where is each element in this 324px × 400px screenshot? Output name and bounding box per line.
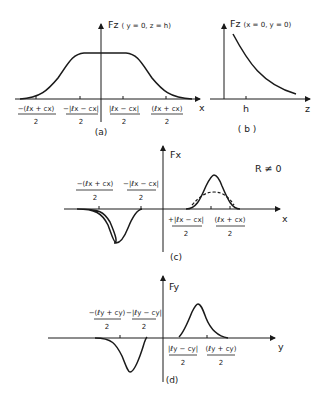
fz-decay-curve: [233, 34, 296, 94]
panel-d: Fy y −(ℓy + cy) 2 −|ℓy − cy| 2 |ℓy − cy|…: [48, 276, 284, 385]
x-axis-label: y: [278, 341, 284, 352]
svg-text:2: 2: [181, 359, 185, 367]
tick-label: −(ℓy + cy) 2: [89, 309, 126, 331]
panel-a: Fz ( y = 0, z = h) x −(ℓx + cx) 2 −|ℓx −…: [15, 19, 205, 137]
tick-label: −|ℓx − cx| 2: [123, 180, 159, 202]
panel-c: Fx x R ≠ 0 −(ℓx + cx) 2 −|ℓx − cx| 2 +|ℓ…: [64, 146, 288, 262]
y-axis-label: Fz ( y = 0, z = h): [108, 19, 171, 30]
tick-label: −(ℓx + cx) 2: [76, 180, 114, 202]
panel-b: Fz (x = 0, y = 0) h z ( b ): [210, 18, 310, 134]
tick-label: −|ℓy − cy| 2: [126, 309, 162, 331]
svg-text:−(ℓx + cx): −(ℓx + cx): [18, 105, 55, 113]
tick-label: |ℓy − cy| 2: [168, 345, 198, 367]
svg-text:−(ℓx + cx): −(ℓx + cx): [77, 180, 114, 188]
svg-text:−|ℓx − cx|: −|ℓx − cx|: [123, 180, 159, 188]
tick-label: (ℓy + cy) 2: [206, 345, 237, 367]
x-axis-label: z: [305, 103, 310, 114]
fy-negative-lobe: [95, 337, 147, 372]
svg-text:2: 2: [184, 230, 188, 238]
svg-text:2: 2: [139, 194, 143, 202]
tick-label: |ℓx − cx| 2: [109, 105, 140, 126]
svg-text:2: 2: [219, 359, 223, 367]
tick-label: −|ℓx − cx| 2: [63, 105, 99, 126]
tick-label: +|ℓx − cx| 2: [168, 216, 204, 238]
y-axis-label: Fz (x = 0, y = 0): [230, 18, 291, 29]
fx-negative-lobe: [77, 209, 142, 243]
force-profile-diagram: Fz ( y = 0, z = h) x −(ℓx + cx) 2 −|ℓx −…: [0, 0, 324, 400]
fz-curve: [20, 53, 192, 99]
tick-label-h: h: [243, 103, 249, 114]
svg-text:2: 2: [122, 118, 126, 126]
svg-text:2: 2: [228, 230, 232, 238]
y-axis-label: Fy: [169, 281, 180, 292]
svg-text:2: 2: [34, 118, 38, 126]
panel-caption: (d): [166, 375, 179, 385]
svg-text:+|ℓx − cx|: +|ℓx − cx|: [168, 216, 204, 224]
tick-label: (ℓx + cx) 2: [215, 216, 246, 238]
svg-text:2: 2: [142, 323, 146, 331]
tick-label: −(ℓx + cx) 2: [18, 105, 56, 126]
svg-text:2: 2: [79, 118, 83, 126]
svg-text:(ℓy + cy): (ℓy + cy): [206, 345, 237, 353]
x-axis-label: x: [199, 102, 205, 113]
svg-text:2: 2: [93, 194, 97, 202]
svg-text:−|ℓx − cx|: −|ℓx − cx|: [63, 105, 99, 113]
annotation-r-not-zero: R ≠ 0: [255, 163, 282, 174]
fy-positive-lobe: [179, 304, 228, 338]
svg-text:(ℓx + cx): (ℓx + cx): [215, 216, 246, 224]
svg-text:(ℓx + cx): (ℓx + cx): [152, 105, 183, 113]
y-axis-label: Fx: [170, 149, 181, 160]
svg-text:2: 2: [105, 323, 109, 331]
svg-text:−|ℓy − cy|: −|ℓy − cy|: [126, 309, 162, 317]
svg-text:|ℓx − cx|: |ℓx − cx|: [109, 105, 139, 113]
svg-text:|ℓy − cy|: |ℓy − cy|: [168, 345, 198, 353]
tick-label: (ℓx + cx) 2: [151, 105, 183, 126]
svg-text:−(ℓy + cy): −(ℓy + cy): [89, 309, 126, 317]
x-axis-label: x: [282, 213, 288, 224]
panel-caption: (c): [170, 252, 182, 262]
panel-caption: (a): [95, 127, 108, 137]
panel-caption: ( b ): [238, 124, 256, 134]
svg-text:2: 2: [165, 118, 169, 126]
